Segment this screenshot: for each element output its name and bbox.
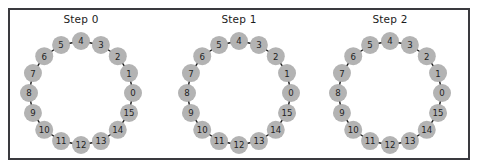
- graph-node-label: 11: [365, 136, 376, 146]
- graph-node-label: 2: [273, 52, 278, 62]
- graph-node: 1: [278, 64, 296, 82]
- graph-node-label: 3: [98, 40, 103, 50]
- graph-node: 12: [72, 136, 90, 154]
- graph-node-label: 8: [26, 88, 31, 98]
- graph-node: 10: [35, 121, 53, 139]
- graph-node: 2: [418, 47, 436, 65]
- graph-node: 13: [401, 132, 419, 150]
- graph-node: 4: [72, 32, 90, 50]
- graph-node-label: 6: [350, 52, 355, 62]
- graph-node-label: 2: [115, 52, 120, 62]
- graph-node-label: 13: [253, 136, 264, 146]
- graph-node: 10: [193, 121, 211, 139]
- graph-node-label: 4: [387, 36, 392, 46]
- ring-graph-step-0: 0123456789101112131415: [2, 0, 160, 168]
- graph-node: 5: [52, 36, 70, 54]
- graph-node-label: 15: [282, 108, 293, 118]
- graph-node: 8: [178, 84, 196, 102]
- graph-node: 9: [182, 104, 200, 122]
- graph-node-label: 5: [216, 40, 221, 50]
- graph-node: 0: [124, 84, 142, 102]
- graph-node: 13: [250, 132, 268, 150]
- graph-node-label: 15: [433, 108, 444, 118]
- graph-node-label: 5: [367, 40, 372, 50]
- graph-node-label: 0: [288, 88, 293, 98]
- graph-node-label: 5: [58, 40, 63, 50]
- graph-node-label: 7: [339, 69, 344, 79]
- graph-node: 0: [433, 84, 451, 102]
- graph-node: 1: [120, 64, 138, 82]
- graph-node: 1: [429, 64, 447, 82]
- graph-node-label: 9: [339, 108, 344, 118]
- graph-node: 8: [20, 84, 38, 102]
- graph-node: 5: [361, 36, 379, 54]
- graph-node: 11: [210, 132, 228, 150]
- graph-node-label: 6: [41, 52, 46, 62]
- graph-node-label: 7: [188, 69, 193, 79]
- graph-node: 7: [24, 64, 42, 82]
- graph-node-label: 11: [214, 136, 225, 146]
- graph-node-label: 4: [236, 36, 241, 46]
- graph-node-label: 8: [184, 88, 189, 98]
- graph-node: 11: [361, 132, 379, 150]
- graph-node: 14: [267, 121, 285, 139]
- graph-node: 3: [401, 36, 419, 54]
- graph-node: 2: [109, 47, 127, 65]
- ring-graph-step-2: 0123456789101112131415: [311, 0, 469, 168]
- figure-canvas: Step 0 0123456789101112131415 Step 1 012…: [0, 0, 478, 168]
- graph-node: 3: [250, 36, 268, 54]
- graph-node-label: 12: [385, 140, 396, 150]
- graph-node-label: 1: [126, 69, 131, 79]
- graph-node-label: 9: [188, 108, 193, 118]
- graph-node: 9: [24, 104, 42, 122]
- graph-node-label: 11: [56, 136, 67, 146]
- graph-node-label: 14: [270, 125, 281, 135]
- ring-graph-step-1: 0123456789101112131415: [160, 0, 318, 168]
- graph-node-label: 12: [76, 140, 87, 150]
- panel-step-0: Step 0 0123456789101112131415: [2, 0, 160, 168]
- graph-node-label: 1: [284, 69, 289, 79]
- panel-step-2: Step 2 0123456789101112131415: [311, 0, 469, 168]
- graph-node: 12: [230, 136, 248, 154]
- graph-node-label: 2: [424, 52, 429, 62]
- panel-step-1: Step 1 0123456789101112131415: [160, 0, 318, 168]
- graph-node-label: 6: [199, 52, 204, 62]
- graph-node: 15: [278, 104, 296, 122]
- graph-node: 6: [193, 47, 211, 65]
- graph-node-label: 8: [335, 88, 340, 98]
- graph-node-label: 10: [39, 125, 50, 135]
- graph-node: 15: [120, 104, 138, 122]
- graph-node: 8: [329, 84, 347, 102]
- graph-node: 3: [92, 36, 110, 54]
- graph-node: 12: [381, 136, 399, 154]
- graph-node-label: 7: [30, 69, 35, 79]
- graph-node: 11: [52, 132, 70, 150]
- graph-node: 5: [210, 36, 228, 54]
- graph-node-label: 3: [256, 40, 261, 50]
- graph-node-label: 14: [112, 125, 123, 135]
- graph-node-label: 10: [348, 125, 359, 135]
- graph-node-label: 0: [439, 88, 444, 98]
- graph-node: 2: [267, 47, 285, 65]
- graph-node-label: 0: [130, 88, 135, 98]
- graph-node-label: 9: [30, 108, 35, 118]
- graph-node-label: 15: [124, 108, 135, 118]
- graph-node: 9: [333, 104, 351, 122]
- graph-node: 4: [230, 32, 248, 50]
- graph-node-label: 13: [95, 136, 106, 146]
- graph-node-label: 1: [435, 69, 440, 79]
- graph-node: 14: [418, 121, 436, 139]
- graph-node-label: 10: [197, 125, 208, 135]
- graph-node: 15: [429, 104, 447, 122]
- graph-node: 7: [333, 64, 351, 82]
- graph-node: 7: [182, 64, 200, 82]
- graph-node: 10: [344, 121, 362, 139]
- graph-node-label: 12: [234, 140, 245, 150]
- graph-node: 6: [35, 47, 53, 65]
- graph-node-label: 4: [78, 36, 83, 46]
- graph-node-label: 3: [407, 40, 412, 50]
- graph-node: 6: [344, 47, 362, 65]
- graph-node-label: 13: [404, 136, 415, 146]
- graph-node-label: 14: [421, 125, 432, 135]
- graph-node: 14: [109, 121, 127, 139]
